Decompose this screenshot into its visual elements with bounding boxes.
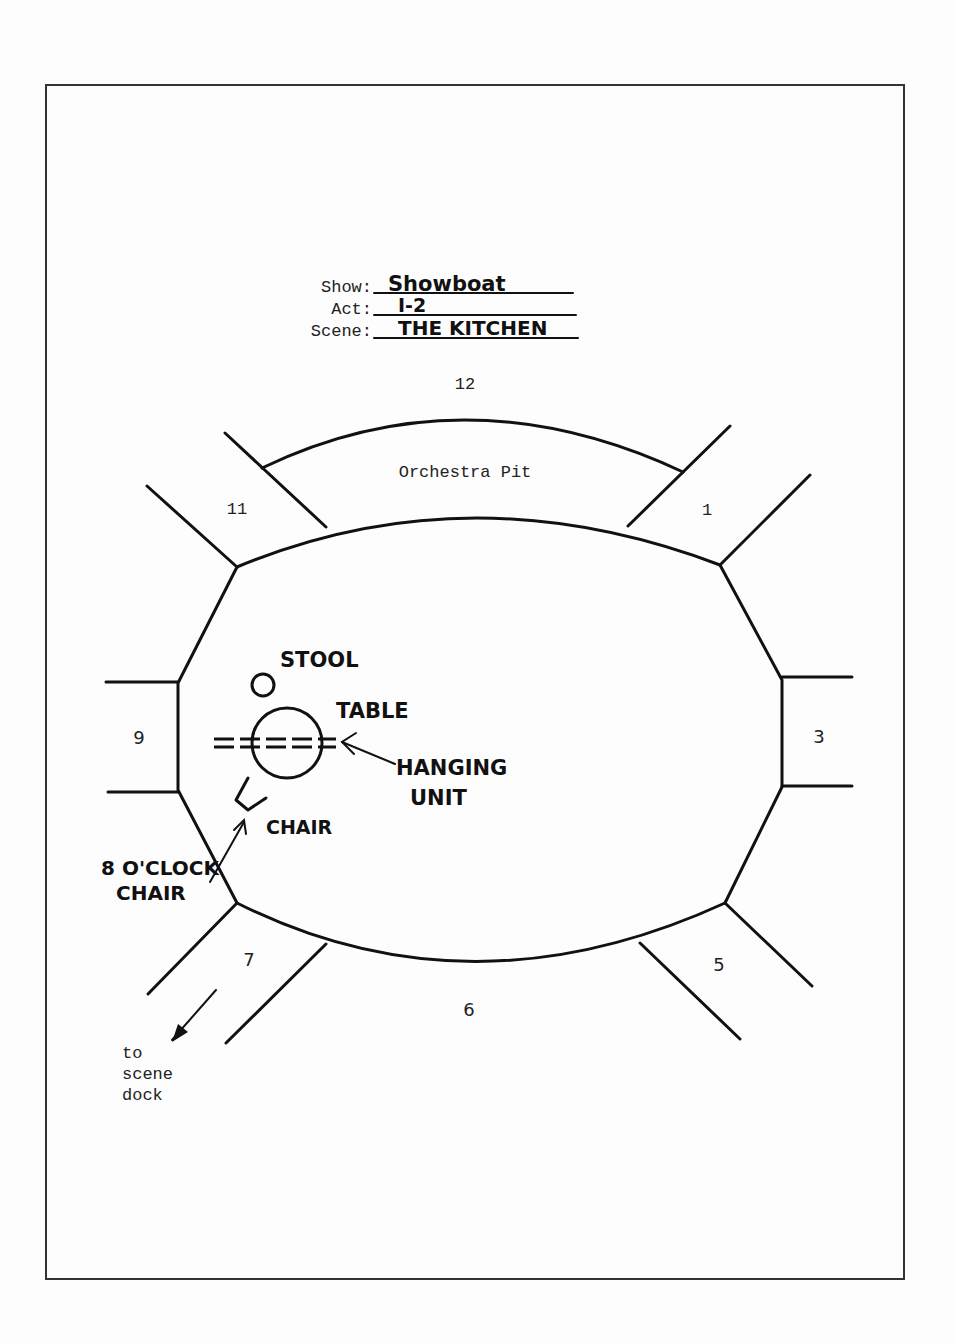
chair-icon xyxy=(236,778,266,810)
exit-note-line2: scene xyxy=(122,1065,173,1084)
aisle-1-outer-line xyxy=(720,475,810,565)
aisle-number-6: 6 xyxy=(463,999,474,1020)
aisle-numbers: 12 Orchestra Pit 11 1 3 5 6 7 9 xyxy=(133,375,824,1020)
stage-front-edge xyxy=(237,518,720,567)
scene-value: THE KITCHEN xyxy=(398,316,547,340)
chair-label: CHAIR xyxy=(266,816,333,838)
aisle-number-12: 12 xyxy=(455,375,475,394)
aisle-12-1-line xyxy=(628,426,730,526)
aisle-number-3: 3 xyxy=(813,726,824,747)
aisle-number-11: 11 xyxy=(227,500,247,519)
aisle-7-outer-line xyxy=(148,903,237,994)
exit-arrow-icon xyxy=(172,990,216,1042)
hanging-unit-label-line2: UNIT xyxy=(410,786,467,810)
scene-dock-exit-note: to scene dock xyxy=(122,990,216,1105)
exit-note-line3: dock xyxy=(122,1086,163,1105)
exit-note-line1: to xyxy=(122,1044,142,1063)
aisle-5-outer-line xyxy=(725,903,812,986)
stage-right-edge xyxy=(720,565,782,903)
stool-icon xyxy=(252,674,274,696)
eight-oclock-chair-label-line2: CHAIR xyxy=(116,881,186,905)
eight-oclock-arrow-icon xyxy=(210,820,246,882)
table-icon xyxy=(252,708,322,778)
stool-label: STOOL xyxy=(280,648,359,672)
aisle-number-7: 7 xyxy=(243,949,254,970)
aisle-number-5: 5 xyxy=(713,954,724,975)
hanging-unit-arrow-icon xyxy=(342,733,395,764)
aisle-5-6-line xyxy=(640,943,740,1039)
aisle-number-9: 9 xyxy=(133,727,144,748)
title-block: Show: Showboat Act: I-2 Scene: THE KITCH… xyxy=(311,272,578,341)
stage-left-edge xyxy=(178,567,237,903)
orchestra-pit-label: Orchestra Pit xyxy=(399,463,532,482)
table-label: TABLE xyxy=(336,699,409,723)
aisle-number-1: 1 xyxy=(702,501,712,520)
scene-label: Scene: xyxy=(311,322,372,341)
act-label: Act: xyxy=(331,300,372,319)
aisle-11-outer-line xyxy=(147,486,237,567)
props: STOOL TABLE HANGING UNIT CHAIR 8 O'CLOCK… xyxy=(101,648,507,905)
hanging-unit-label-line1: HANGING xyxy=(396,756,507,780)
eight-oclock-chair-label-line1: 8 O'CLOCK xyxy=(101,856,220,880)
stage-plot-diagram: Show: Showboat Act: I-2 Scene: THE KITCH… xyxy=(0,0,956,1344)
show-label: Show: xyxy=(321,278,372,297)
act-value: I-2 xyxy=(398,294,426,316)
stage-outline xyxy=(106,420,852,1043)
hanging-unit-icon xyxy=(214,739,336,747)
aisle-6-7-line xyxy=(226,944,326,1043)
